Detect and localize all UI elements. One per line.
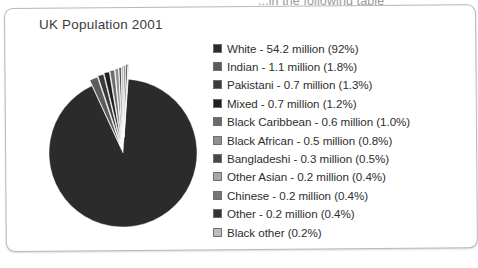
- legend-swatch-icon: [213, 136, 222, 145]
- legend-swatch-icon: [213, 44, 222, 53]
- legend-swatch-icon: [213, 172, 222, 181]
- chart-title: UK Population 2001: [39, 17, 163, 32]
- legend-item-label: Chinese - 0.2 million (0.4%): [227, 189, 368, 202]
- legend-item-label: Black other (0.2%): [227, 226, 321, 239]
- pie-chart-svg: [35, 61, 215, 241]
- legend-item[interactable]: Chinese - 0.2 million (0.4%): [213, 186, 447, 204]
- legend-swatch-icon: [213, 154, 222, 163]
- legend-item-label: Mixed - 0.7 million (1.2%): [227, 97, 357, 110]
- legend-swatch-icon: [213, 228, 222, 237]
- legend-item-label: Pakistani - 0.7 million (1.3%): [227, 78, 372, 91]
- legend-swatch-icon: [213, 99, 222, 108]
- legend-item[interactable]: Black other (0.2%): [213, 223, 447, 241]
- legend-item[interactable]: Other Asian - 0.2 million (0.4%): [213, 168, 447, 186]
- chart-card: UK Population 2001 White - 54.2 million …: [4, 4, 478, 252]
- legend-item[interactable]: Black African - 0.5 million (0.8%): [213, 131, 447, 149]
- legend-item[interactable]: Indian - 1.1 million (1.8%): [213, 57, 447, 75]
- legend-swatch-icon: [213, 209, 222, 218]
- legend-item[interactable]: Black Caribbean - 0.6 million (1.0%): [213, 113, 447, 131]
- legend-item-label: Other - 0.2 million (0.4%): [227, 207, 355, 220]
- legend-item-label: Other Asian - 0.2 million (0.4%): [227, 170, 386, 183]
- legend-swatch-icon: [213, 191, 222, 200]
- legend-item[interactable]: Other - 0.2 million (0.4%): [213, 205, 447, 223]
- chart-legend: White - 54.2 million (92%)Indian - 1.1 m…: [213, 39, 447, 241]
- legend-item[interactable]: Bangladeshi - 0.3 million (0.5%): [213, 149, 447, 167]
- legend-item-label: Black African - 0.5 million (0.8%): [227, 134, 392, 147]
- legend-item[interactable]: Pakistani - 0.7 million (1.3%): [213, 76, 447, 94]
- chart-card-inner: UK Population 2001 White - 54.2 million …: [5, 9, 447, 251]
- legend-item[interactable]: White - 54.2 million (92%): [213, 39, 447, 57]
- legend-item-label: Black Caribbean - 0.6 million (1.0%): [227, 115, 410, 128]
- legend-item-label: Indian - 1.1 million (1.8%): [227, 60, 357, 73]
- legend-swatch-icon: [213, 80, 222, 89]
- legend-item-label: Bangladeshi - 0.3 million (0.5%): [227, 152, 389, 165]
- pie-chart: [35, 61, 215, 241]
- legend-swatch-icon: [213, 62, 222, 71]
- legend-swatch-icon: [213, 117, 222, 126]
- legend-item[interactable]: Mixed - 0.7 million (1.2%): [213, 94, 447, 112]
- legend-item-label: White - 54.2 million (92%): [227, 42, 358, 55]
